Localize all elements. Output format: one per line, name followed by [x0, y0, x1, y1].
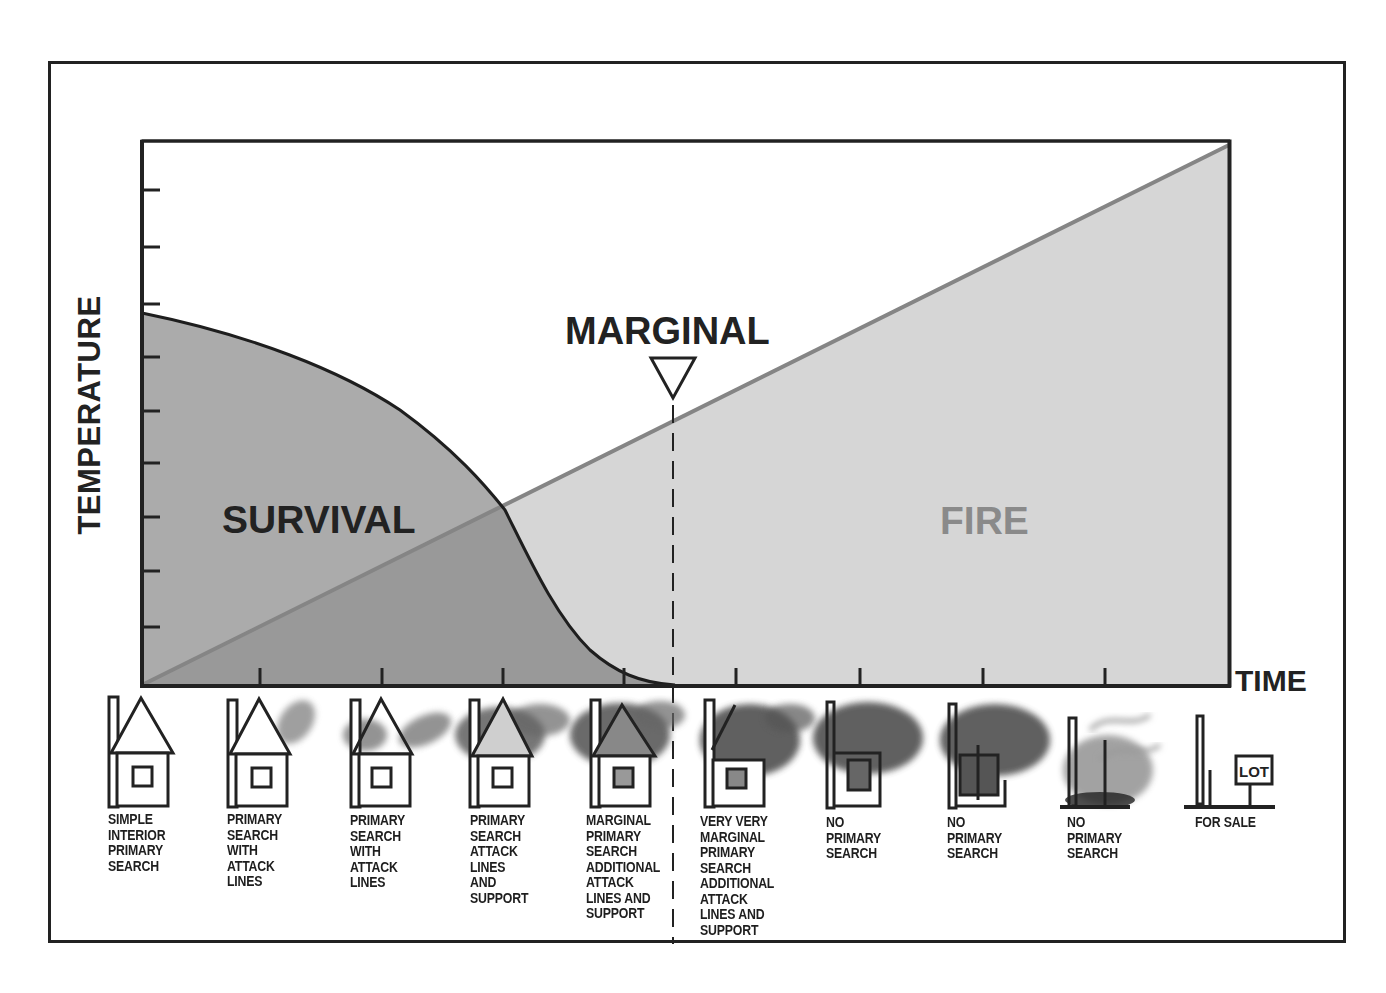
stage-caption-1: SIMPLE INTERIOR PRIMARY SEARCH: [108, 812, 165, 874]
marginal-label: MARGINAL: [565, 310, 770, 353]
stage-caption-9: NO PRIMARY SEARCH: [1067, 815, 1122, 862]
survival-label: SURVIVAL: [222, 498, 416, 542]
chart: LOT: [0, 0, 1386, 993]
house-icon-10-lot: LOT: [1184, 716, 1275, 807]
stage-caption-8: NO PRIMARY SEARCH: [947, 815, 1002, 862]
stage-caption-5: MARGINAL PRIMARY SEARCH ADDITIONAL ATTAC…: [586, 813, 660, 922]
lot-sign-text: LOT: [1239, 763, 1269, 780]
fire-label: FIRE: [940, 499, 1029, 543]
stage-caption-3: PRIMARY SEARCH WITH ATTACK LINES: [350, 813, 405, 891]
house-icon-3: [343, 699, 456, 807]
house-icon-7: [813, 702, 923, 808]
house-icon-8: [940, 704, 1050, 808]
house-icon-4: [455, 699, 570, 807]
stage-caption-10: FOR SALE: [1195, 815, 1256, 831]
house-icon-5: [570, 700, 685, 807]
house-icon-9: [1060, 715, 1160, 808]
house-icon-2: [228, 693, 323, 807]
x-axis-label: TIME: [1235, 664, 1307, 698]
house-icon-1: [109, 697, 173, 807]
stage-caption-6: VERY VERY MARGINAL PRIMARY SEARCH ADDITI…: [700, 814, 774, 938]
stage-caption-7: NO PRIMARY SEARCH: [826, 815, 881, 862]
house-icon-6: [700, 700, 815, 807]
stage-caption-2: PRIMARY SEARCH WITH ATTACK LINES: [227, 812, 282, 890]
stage-caption-4: PRIMARY SEARCH ATTACK LINES AND SUPPORT: [470, 813, 528, 906]
